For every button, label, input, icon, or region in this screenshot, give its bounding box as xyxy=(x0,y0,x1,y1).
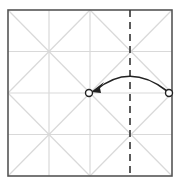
origami-diagram xyxy=(0,0,175,184)
arrow-head-icon xyxy=(91,82,104,93)
fold-arrow xyxy=(96,76,167,91)
target-point xyxy=(86,90,93,97)
start-point xyxy=(166,90,173,97)
